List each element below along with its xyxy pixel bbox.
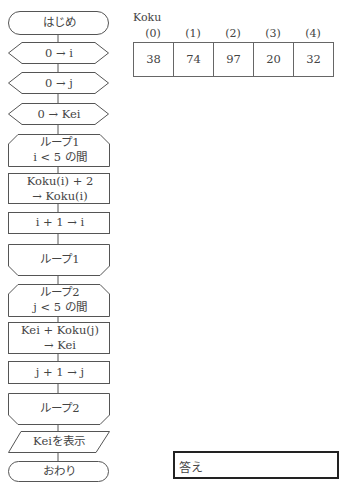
answer-input-box[interactable]: 答え (173, 451, 339, 479)
loop2-body-line1: Kei + Koku(j) (9, 323, 111, 338)
loop2-body-label: Kei + Koku(j) → Kei (9, 323, 111, 353)
loop2-start-label: ループ2 j < 5 の間 (9, 285, 111, 315)
loop1-start-name: ループ1 (9, 135, 111, 150)
loop1-body-label: Koku(i) + 2 → Koku(i) (9, 174, 111, 204)
array-index: (3) (253, 25, 293, 42)
loop2-end-label: ループ2 (9, 401, 111, 416)
start-label: はじめ (8, 15, 110, 30)
array-index-row: (0) (1) (2) (3) (4) (133, 25, 334, 42)
loop2-body-line2: → Kei (9, 338, 111, 353)
init-i-label: 0 → i (8, 46, 110, 61)
array-value-row: 38 74 97 20 32 (133, 42, 334, 77)
loop2-condition: j < 5 の間 (9, 300, 111, 315)
array-cell: 38 (134, 43, 174, 76)
array-cell: 20 (254, 43, 294, 76)
loop1-end-label: ループ1 (9, 252, 111, 267)
array-cell: 32 (294, 43, 333, 76)
array-index: (2) (213, 25, 253, 42)
loop1-increment-label: i + 1 → i (9, 215, 111, 230)
loop1-body-line1: Koku(i) + 2 (9, 174, 111, 189)
loop2-increment-label: j + 1 → j (9, 365, 111, 380)
output-label: Keiを表示 (8, 434, 110, 449)
loop1-start-label: ループ1 i < 5 の間 (9, 135, 111, 165)
array-index: (4) (293, 25, 333, 42)
array-index: (1) (173, 25, 213, 42)
init-kei-label: 0 → Kei (8, 107, 110, 122)
init-j-label: 0 → j (8, 76, 110, 91)
array-index: (0) (133, 25, 173, 42)
array-cell: 74 (174, 43, 214, 76)
loop1-condition: i < 5 の間 (9, 150, 111, 165)
loop1-body-line2: → Koku(i) (9, 189, 111, 204)
answer-label: 答え (179, 458, 203, 475)
end-label: おわり (8, 464, 110, 479)
koku-array-table: (0) (1) (2) (3) (4) 38 74 97 20 32 (133, 25, 334, 77)
array-cell: 97 (214, 43, 254, 76)
array-name: Koku (133, 11, 161, 24)
loop2-start-name: ループ2 (9, 285, 111, 300)
